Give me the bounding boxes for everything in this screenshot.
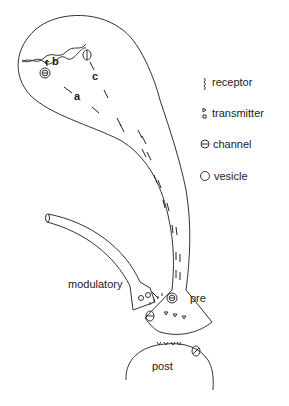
legend-item-receptor: receptor (204, 76, 253, 90)
arrow-b (45, 60, 49, 66)
arrow-a (64, 87, 72, 93)
modulatory-terminal (130, 286, 155, 310)
cell-body-outline (18, 15, 173, 290)
arrow-c (90, 62, 94, 70)
modulatory-vesicle-1 (139, 296, 144, 301)
label-pre: pre (190, 292, 206, 304)
legend: receptor transmitter channel vesicle (201, 76, 265, 182)
transmitter-icon (203, 108, 206, 118)
label-a: a (74, 90, 81, 102)
modulatory-axon-cut-end (46, 214, 50, 222)
vesicle-icon (201, 172, 210, 181)
diagram-canvas: b c a pre (0, 0, 289, 406)
legend-item-vesicle: vesicle (201, 170, 248, 182)
legend-label-channel: channel (213, 138, 252, 150)
receptor-icon (204, 78, 206, 90)
modulatory-axon-top (48, 214, 150, 288)
modulatory-vesicle-2 (146, 293, 151, 298)
legend-label-transmitter: transmitter (212, 107, 264, 119)
label-b: b (52, 55, 59, 67)
legend-label-receptor: receptor (212, 76, 253, 88)
axonal-transport-arrows (92, 90, 180, 280)
axon-outline-right (120, 28, 190, 290)
label-post: post (152, 360, 173, 372)
modulatory-axon-bottom (47, 222, 130, 286)
label-modulatory: modulatory (68, 278, 123, 290)
pre-transmitters (164, 312, 186, 319)
legend-item-transmitter: transmitter (203, 107, 264, 119)
legend-item-channel: channel (201, 138, 252, 150)
legend-label-vesicle: vesicle (214, 170, 248, 182)
label-c: c (92, 70, 98, 82)
